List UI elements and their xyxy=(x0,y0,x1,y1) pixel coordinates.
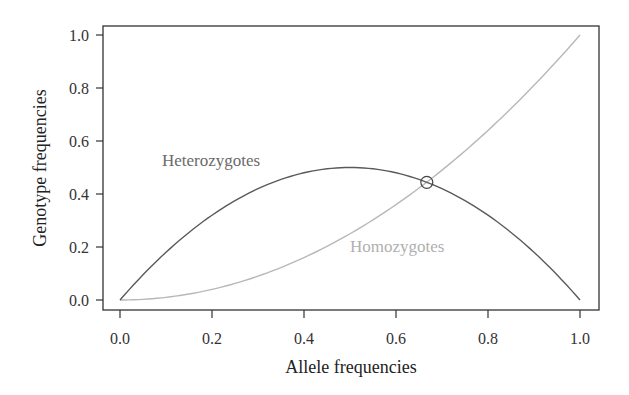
y-tick-label: 0.0 xyxy=(69,292,89,309)
homozygotes-label: Homozygotes xyxy=(350,237,444,256)
y-tick-label: 0.2 xyxy=(69,239,89,256)
y-tick-label: 0.6 xyxy=(69,133,89,150)
x-tick-label: 0.8 xyxy=(478,330,498,347)
heterozygotes-label: Heterozygotes xyxy=(162,151,260,170)
x-tick-label: 0.0 xyxy=(110,330,130,347)
y-tick-label: 1.0 xyxy=(69,27,89,44)
x-axis-title: Allele frequencies xyxy=(285,357,416,377)
y-tick-label: 0.8 xyxy=(69,80,89,97)
x-tick-label: 0.6 xyxy=(386,330,406,347)
y-axis-title: Genotype frequencies xyxy=(30,89,50,246)
x-tick-label: 0.2 xyxy=(202,330,222,347)
x-axis-ticks: 0.00.20.40.60.81.0 xyxy=(110,310,590,347)
y-axis-ticks: 0.00.20.40.60.81.0 xyxy=(69,27,103,309)
genotype-frequency-chart: 0.00.20.40.60.81.0 0.00.20.40.60.81.0 He… xyxy=(0,0,629,395)
y-tick-label: 0.4 xyxy=(69,186,89,203)
x-tick-label: 1.0 xyxy=(570,330,590,347)
x-tick-label: 0.4 xyxy=(294,330,314,347)
